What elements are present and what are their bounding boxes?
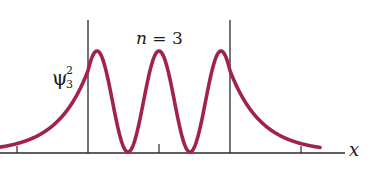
state-label: n = 3: [136, 28, 183, 48]
y-axis-label: ψ23: [52, 66, 68, 90]
wavefunction-plot: [0, 0, 373, 189]
probability-density-curve: [0, 51, 320, 152]
x-axis-label: x: [349, 139, 359, 160]
